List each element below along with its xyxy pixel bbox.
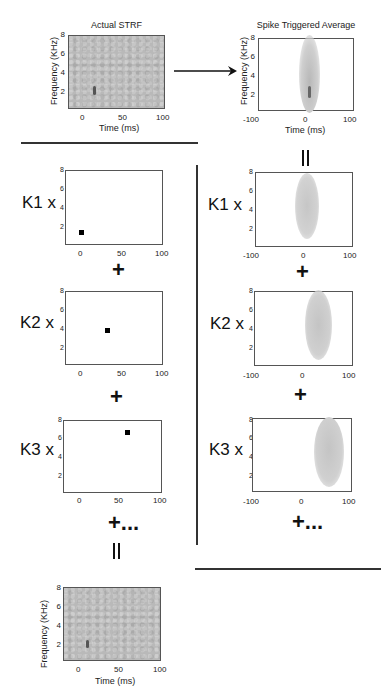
sta-heatmap [258, 38, 354, 111]
xtick: 100 [342, 371, 355, 380]
xtick: 0 [78, 249, 82, 258]
xtick: 50 [114, 665, 123, 674]
k3-impulse-plot [63, 420, 162, 493]
xtick: 0 [76, 665, 80, 674]
ytick: 2 [53, 87, 65, 96]
recovered-strf-xlabel: Time (ms) [95, 676, 135, 686]
k2-impulse-plot [65, 291, 163, 365]
ytick: 6 [52, 185, 64, 192]
actual-strf-xlabel: Time (ms) [99, 123, 139, 133]
ytick: 8 [53, 30, 65, 39]
xtick: 100 [342, 497, 355, 506]
sta-hotspot [308, 86, 311, 98]
ytick: 6 [53, 49, 65, 58]
ytick: 8 [243, 33, 255, 42]
k2-impulse-dot [105, 328, 110, 333]
ytick: 4 [52, 325, 64, 332]
xtick: 100 [156, 113, 169, 122]
plus-more-symbol: +... [108, 512, 139, 534]
xtick: -100 [243, 371, 259, 380]
plus-symbol: + [110, 386, 123, 408]
xtick: 100 [153, 665, 166, 674]
k2-label-right: K2 x [210, 314, 244, 334]
ytick: 4 [50, 453, 62, 460]
divider-vertical [196, 165, 198, 545]
recovered-strf-heatmap [63, 587, 161, 661]
divider-bottom-right [195, 568, 381, 570]
xtick: 50 [114, 496, 123, 505]
ytick: 8 [52, 287, 64, 294]
ytick: 8 [50, 416, 62, 423]
xtick: -100 [243, 115, 259, 124]
xtick: 100 [343, 251, 356, 260]
k1-sta-plot [255, 172, 353, 247]
plus-symbol: + [294, 384, 307, 406]
ytick: 6 [241, 306, 253, 313]
plus-symbol: + [112, 259, 125, 281]
ytick: 6 [243, 52, 255, 61]
xtick: 100 [155, 249, 168, 258]
xtick: 0 [303, 115, 307, 124]
k3-smear [314, 417, 344, 487]
k2-label-left: K2 x [20, 313, 54, 333]
ytick: 4 [53, 68, 65, 77]
ytick: 2 [241, 225, 253, 232]
plus-more-symbol: +... [292, 511, 323, 533]
k2-sta-plot [254, 291, 353, 366]
k1-label-right: K1 x [208, 195, 242, 215]
ytick: 2 [52, 344, 64, 351]
ytick: 6 [49, 602, 61, 611]
xtick: 0 [77, 496, 81, 505]
ytick: 2 [50, 472, 62, 479]
divider-top-left [21, 142, 198, 144]
ytick: 4 [49, 621, 61, 630]
k3-sta-plot [252, 418, 352, 492]
ytick: 4 [243, 71, 255, 80]
ytick: 8 [241, 168, 253, 175]
arrow-right-icon [174, 64, 238, 82]
xtick: 0 [299, 497, 303, 506]
equals-symbol [112, 543, 121, 559]
ytick: 2 [243, 90, 255, 99]
xtick: 0 [78, 369, 82, 378]
xtick: 0 [80, 113, 84, 122]
ytick: 8 [52, 166, 64, 173]
xtick: -100 [243, 251, 259, 260]
k3-label-right: K3 x [209, 440, 243, 460]
xtick: -100 [243, 497, 259, 506]
xtick: 50 [117, 369, 126, 378]
k1-impulse-dot [79, 230, 84, 235]
recovered-hotspot [86, 640, 89, 648]
ytick: 8 [49, 583, 61, 592]
k3-label-left: K3 x [20, 440, 54, 460]
k2-smear [305, 290, 332, 360]
xtick: 100 [155, 369, 168, 378]
ytick: 4 [241, 206, 253, 213]
ytick: 8 [241, 287, 253, 294]
actual-strf-title: Actual STRF [68, 20, 165, 30]
equals-symbol [301, 150, 310, 166]
ytick: 6 [241, 187, 253, 194]
xtick: 0 [300, 371, 304, 380]
k1-smear [295, 173, 319, 239]
ytick: 6 [50, 434, 62, 441]
ytick: 4 [52, 204, 64, 211]
ytick: 4 [241, 325, 253, 332]
strf-hotspot [93, 86, 96, 95]
ytick: 2 [52, 223, 64, 230]
sta-title: Spike Triggered Average [244, 20, 368, 30]
k1-label-left: K1 x [22, 193, 56, 213]
ytick: 6 [52, 306, 64, 313]
actual-strf-heatmap [68, 35, 165, 109]
recovered-strf-ylabel: Frequency (KHz) [39, 600, 49, 668]
ytick: 2 [241, 344, 253, 351]
xtick: 50 [118, 113, 127, 122]
plus-symbol: + [296, 261, 309, 283]
xtick: 100 [343, 115, 356, 124]
ytick: 2 [49, 640, 61, 649]
sta-xlabel: Time (ms) [285, 125, 325, 135]
xtick: 100 [153, 496, 166, 505]
k1-impulse-plot [65, 170, 163, 245]
k3-impulse-dot [125, 430, 130, 435]
sta-smear [299, 35, 320, 113]
